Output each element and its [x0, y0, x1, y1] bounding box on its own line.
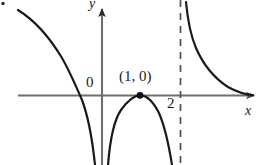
x-axis-label: x — [245, 104, 251, 118]
corner-artifact-dot — [1, 2, 4, 5]
origin-label: 0 — [86, 75, 94, 90]
function-graph-figure: 0 2 (1, 0) x y — [0, 0, 266, 165]
x-tick-label-2: 2 — [167, 96, 175, 111]
point-marker-1-0 — [137, 92, 144, 99]
curve-middle-hump — [108, 95, 172, 165]
curve-left-branch — [18, 10, 95, 165]
point-label-1-0: (1, 0) — [119, 69, 152, 84]
curve-right-branch — [186, 2, 253, 95]
y-axis-label: y — [89, 0, 95, 11]
